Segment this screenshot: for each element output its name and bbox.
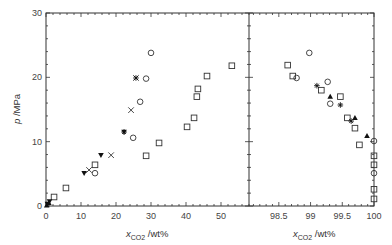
data-point-square xyxy=(92,162,98,168)
x-tick-label: 50 xyxy=(216,211,226,221)
data-point-asterisk xyxy=(133,75,139,81)
x-tick-label: 99.5 xyxy=(334,211,352,221)
x-tick-label: 98.5 xyxy=(270,211,288,221)
data-point-triangle-up xyxy=(364,133,370,138)
x-tick-label: 100 xyxy=(366,211,381,221)
y-tick-label: 10 xyxy=(32,137,42,147)
data-point-square xyxy=(229,63,235,69)
data-point-square xyxy=(285,62,291,68)
data-point-circle xyxy=(306,50,312,56)
scatter-chart: 01020300102030405098.59999.5100 p /MPa x… xyxy=(0,0,392,245)
data-point-square xyxy=(63,185,69,191)
data-point-square xyxy=(194,94,200,100)
data-point-square xyxy=(143,153,149,159)
data-point-asterisk xyxy=(348,118,354,124)
x-tick-label: 0 xyxy=(43,211,48,221)
data-points xyxy=(44,50,377,208)
data-point-circle xyxy=(92,170,98,176)
data-point-square xyxy=(156,140,162,146)
data-point-circle xyxy=(143,76,149,82)
tick-labels: 01020300102030405098.59999.5100 xyxy=(32,8,382,221)
data-point-circle xyxy=(130,135,136,141)
data-point-circle xyxy=(148,50,154,56)
data-point-square xyxy=(191,115,197,121)
data-point-square xyxy=(195,86,201,92)
data-point-triangle-down xyxy=(81,171,87,176)
x-axis-title-right: xCO2 /wt% xyxy=(292,228,336,241)
data-point-triangle-up xyxy=(327,94,333,99)
data-point-x xyxy=(128,107,134,113)
y-tick-label: 30 xyxy=(32,8,42,18)
data-point-square xyxy=(352,125,358,131)
data-point-square xyxy=(204,73,210,79)
x-tick-label: 40 xyxy=(181,211,191,221)
x-tick-label: 10 xyxy=(76,211,86,221)
x-tick-label: 30 xyxy=(146,211,156,221)
data-point-circle xyxy=(327,101,333,107)
data-point-asterisk xyxy=(121,129,127,135)
x-tick-label: 20 xyxy=(111,211,121,221)
data-point-square xyxy=(184,124,190,130)
data-point-x xyxy=(86,167,92,173)
plot-border xyxy=(46,13,374,206)
y-axis-title: p /MPa xyxy=(11,93,22,125)
data-point-circle xyxy=(325,79,331,85)
data-point-triangle-down xyxy=(98,153,104,158)
data-point-square xyxy=(338,94,344,100)
data-point-square xyxy=(319,87,325,93)
data-point-asterisk xyxy=(338,102,344,108)
y-tick-label: 0 xyxy=(37,201,42,211)
y-tick-label: 20 xyxy=(32,72,42,82)
axis-ticks xyxy=(46,13,374,206)
plot-frame xyxy=(46,13,374,206)
data-point-square xyxy=(357,142,363,148)
x-axis-title-left: xCO2 /wt% xyxy=(125,228,169,241)
data-point-circle xyxy=(294,75,300,81)
x-tick-label: 99 xyxy=(306,211,316,221)
data-point-square xyxy=(51,194,57,200)
data-point-x xyxy=(108,152,114,158)
data-point-asterisk xyxy=(314,83,320,89)
data-point-circle xyxy=(137,99,143,105)
